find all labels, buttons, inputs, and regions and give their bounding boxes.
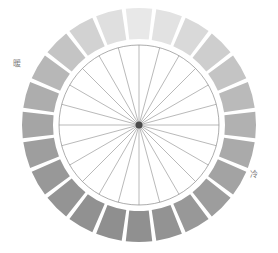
color-wheel-figure: [0, 0, 278, 253]
color-segment: [22, 112, 54, 138]
color-segment: [224, 112, 256, 138]
color-segment: [126, 210, 152, 242]
label-cool: 冷: [250, 170, 258, 179]
label-warm: 暖: [13, 59, 21, 68]
center-hub: [136, 122, 143, 129]
color-wheel-svg: [0, 0, 278, 253]
color-segment: [126, 8, 152, 40]
